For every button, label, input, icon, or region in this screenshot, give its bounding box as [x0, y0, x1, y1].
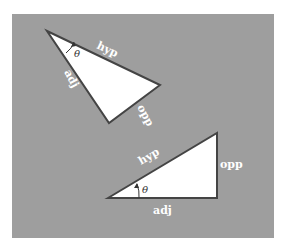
triangles-diagram: θ hyp adj opp θ hyp adj opp [0, 0, 284, 247]
opposite-label: opp [134, 102, 156, 128]
rotated-triangle: θ hyp adj opp [47, 31, 160, 129]
adjacent-label: adj [153, 204, 172, 217]
hypotenuse-label: hyp [136, 145, 162, 167]
angle-label: θ [74, 48, 80, 59]
opposite-label: opp [220, 158, 243, 171]
triangle-shape [108, 133, 217, 198]
upright-triangle: θ hyp adj opp [108, 133, 243, 217]
angle-label: θ [142, 184, 148, 195]
